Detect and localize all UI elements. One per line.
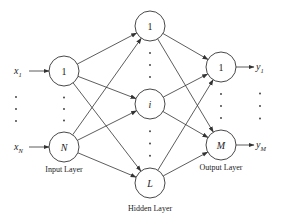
ellipsis-dot — [63, 97, 65, 99]
output-variable-label: yM — [255, 139, 266, 152]
ellipsis-dot — [149, 130, 151, 132]
connection-arrow — [158, 80, 213, 170]
ellipsis-dot — [259, 93, 261, 95]
connection-arrow — [73, 38, 142, 135]
diagram-canvas: x1xNy1yM1N1iL1M Input Layer Hidden Layer… — [0, 0, 284, 217]
ellipsis-dot — [220, 105, 222, 107]
connection-arrow — [77, 33, 136, 64]
neuron-label: 1 — [62, 66, 67, 77]
ellipsis-dot — [259, 105, 261, 107]
ellipsis-dot — [149, 155, 151, 157]
neuron-label: 1 — [148, 21, 153, 32]
input-variable-label: xN — [13, 141, 23, 154]
neuron-label: 1 — [219, 62, 224, 73]
ellipsis-dot — [15, 120, 17, 122]
connection-arrow — [73, 83, 141, 171]
connection-arrow — [163, 74, 207, 97]
input-layer-label: Input Layer — [45, 165, 83, 174]
neuron-label: N — [60, 142, 69, 153]
input-variable-label: x1 — [13, 65, 22, 78]
ellipsis-dot — [259, 118, 261, 120]
output-layer-label: Output Layer — [200, 163, 243, 172]
ellipsis-dot — [15, 108, 17, 110]
ellipsis-dot — [63, 108, 65, 110]
hidden-layer-label: Hidden Layer — [128, 204, 173, 213]
ellipsis-dot — [15, 96, 17, 98]
ellipsis-dot — [149, 143, 151, 145]
ellipsis-dot — [220, 93, 222, 95]
neuron-label: L — [146, 178, 153, 189]
ellipsis-dot — [149, 76, 151, 78]
connection-arrow — [78, 153, 136, 177]
output-variable-label: y1 — [255, 61, 264, 74]
connection-arrow — [163, 34, 208, 60]
neural-network-diagram: x1xNy1yM1N1iL1M Input Layer Hidden Layer… — [0, 0, 284, 217]
neuron-label: M — [216, 140, 226, 151]
ellipsis-dot — [149, 64, 151, 66]
neuron-label: i — [149, 99, 152, 110]
ellipsis-dot — [63, 120, 65, 122]
ellipsis-dot — [220, 117, 222, 119]
ellipsis-dot — [149, 52, 151, 54]
connection-arrow — [78, 76, 136, 98]
